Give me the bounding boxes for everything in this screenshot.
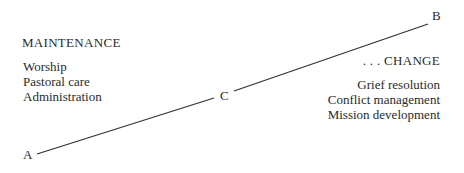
point-a-label: A	[23, 147, 32, 163]
change-heading: . . . CHANGE	[363, 53, 440, 69]
right-item: Grief resolution	[357, 77, 440, 93]
point-c-label: C	[220, 88, 229, 104]
point-b-label: B	[432, 8, 441, 24]
left-item: Pastoral care	[23, 74, 90, 90]
right-item: Mission development	[328, 107, 440, 123]
left-item: Worship	[23, 59, 67, 75]
right-item: Conflict management	[328, 92, 440, 108]
maintenance-heading: MAINTENANCE	[22, 35, 121, 51]
left-item: Administration	[23, 89, 102, 105]
